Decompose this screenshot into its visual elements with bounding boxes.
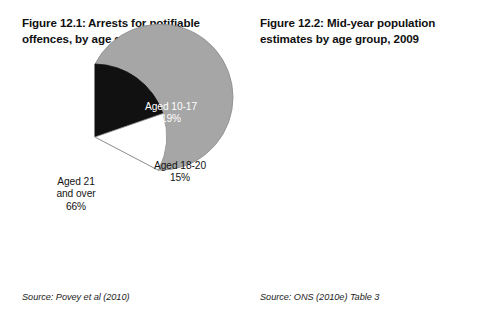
slice-label-category: Aged 10-17 bbox=[128, 101, 214, 113]
slice-label-aged-21-and-over: Aged 21 and over 66% bbox=[34, 176, 118, 213]
slice-label-category-line1: Aged 21 bbox=[34, 176, 118, 188]
slice-label-category-line2: and over bbox=[34, 188, 118, 200]
figure-source: Source: ONS (2010e) Table 3 bbox=[260, 292, 379, 302]
figure-panel-12-1: Figure 12.1: Arrests for notifiable offe… bbox=[0, 0, 240, 321]
slice-label-value: 15% bbox=[140, 172, 220, 184]
figure-title: Figure 12.2: Mid-year population estimat… bbox=[260, 15, 474, 46]
slice-label-value: 19% bbox=[128, 113, 214, 125]
figure-panel-12-2: Figure 12.2: Mid-year population estimat… bbox=[240, 0, 479, 321]
slice-label-category: Aged 18-20 bbox=[140, 160, 220, 172]
slice-label-aged-18-20: Aged 18-20 15% bbox=[140, 160, 220, 185]
slice-label-value: 66% bbox=[34, 201, 118, 213]
figure-source: Source: Povey et al (2010) bbox=[22, 292, 129, 302]
slice-label-aged-10-17: Aged 10-17 19% bbox=[128, 101, 214, 126]
